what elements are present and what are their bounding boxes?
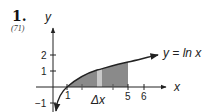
y-tick-2: 2 [41, 50, 47, 61]
function-label: y = ln x [162, 46, 202, 60]
y-tick-1: 1 [41, 66, 47, 77]
x-tick-1: 1 [65, 90, 71, 101]
x-tick-6: 6 [141, 91, 147, 102]
y-tick-neg1: −1 [35, 98, 47, 109]
delta-x-strip [97, 69, 102, 87]
ln-graph: y x y = ln x 2 1 −1 1 5 6 Δx [0, 0, 220, 112]
delta-x-label: Δx [90, 93, 106, 107]
x-tick-5: 5 [125, 91, 131, 102]
x-axis-label: x [173, 80, 181, 94]
y-axis-label: y [44, 10, 52, 24]
